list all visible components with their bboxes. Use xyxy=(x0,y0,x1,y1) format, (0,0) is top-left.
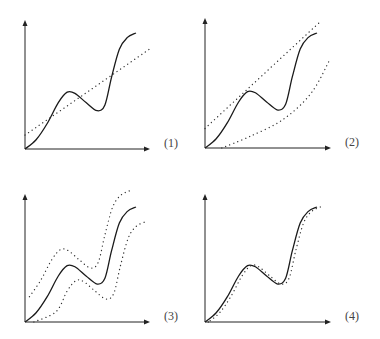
dotted-fits xyxy=(208,207,321,323)
panel-label: (3) xyxy=(164,309,178,323)
dotted-upper-linear-bound xyxy=(205,23,319,129)
true-curve xyxy=(25,207,136,322)
dotted-upper-curve-bound xyxy=(29,191,129,297)
y-axis-arrow-icon xyxy=(23,20,28,26)
dotted-lower-curve-bound xyxy=(34,222,145,322)
x-axis-arrow-icon xyxy=(325,320,331,325)
y-axis-arrow-icon xyxy=(23,194,28,200)
y-axis-arrow-icon xyxy=(203,18,208,24)
dotted-fits xyxy=(25,49,149,135)
panel-3: (3) xyxy=(23,191,179,325)
true-curve xyxy=(25,33,136,149)
panel-4: (4) xyxy=(203,194,360,325)
x-axis-arrow-icon xyxy=(325,146,331,151)
panel-1: (1) xyxy=(23,20,179,152)
figure-four-panels: (1) (2) (3) (4) xyxy=(0,0,380,339)
panel-label: (2) xyxy=(345,135,359,149)
dotted-close-fit xyxy=(208,207,321,323)
panel-label: (1) xyxy=(164,136,178,150)
panel-label: (4) xyxy=(345,309,359,323)
y-axis-arrow-icon xyxy=(203,194,208,200)
x-axis-arrow-icon xyxy=(144,320,150,325)
x-axis-arrow-icon xyxy=(144,147,150,152)
true-curve xyxy=(205,207,317,322)
dotted-linear-fit xyxy=(25,49,149,135)
panel-2: (2) xyxy=(203,18,360,151)
